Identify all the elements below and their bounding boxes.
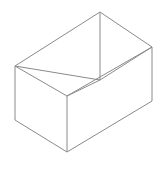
figure-canvas (0, 0, 164, 173)
box-edge-top-right-to-top-front (67, 47, 152, 96)
box-edge-bottom-right-to-bottom-front (67, 101, 152, 152)
box-edge-inner-center-to-top-right (100, 47, 152, 80)
isometric-box-figure (0, 0, 164, 173)
box-edge-top-back-to-top-left (15, 12, 100, 66)
box-edge-group (15, 12, 152, 152)
box-edge-bottom-left-to-bottom-front (15, 120, 67, 152)
box-edge-top-back-to-top-right (100, 12, 152, 47)
box-edge-inner-center-to-top-front (67, 80, 100, 96)
